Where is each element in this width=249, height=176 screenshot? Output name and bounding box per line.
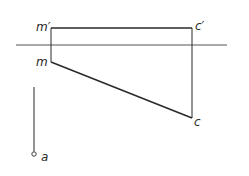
label-m-prime: m′ [36, 20, 51, 34]
line-m-c [51, 62, 192, 118]
label-c: c [194, 115, 201, 129]
label-c-prime: c′ [195, 19, 205, 33]
projection-diagram: m′ c′ m c a [0, 0, 249, 176]
point-a-icon [32, 152, 36, 156]
label-a: a [41, 150, 48, 164]
label-m: m [36, 55, 48, 69]
